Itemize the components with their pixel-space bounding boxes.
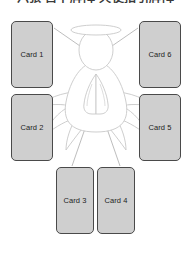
card-label: Card 1	[20, 50, 43, 59]
card-card-6[interactable]: Card 6	[139, 21, 181, 88]
card-label: Card 3	[63, 196, 86, 205]
card-label: Card 2	[20, 123, 43, 132]
spread-diagram: 六张 占卜牌阵 天使指引牌阵 Ca	[0, 0, 191, 254]
card-label: Card 4	[104, 196, 127, 205]
card-card-5[interactable]: Card 5	[139, 94, 181, 161]
card-card-4[interactable]: Card 4	[97, 167, 135, 234]
card-card-1[interactable]: Card 1	[11, 21, 53, 88]
card-label: Card 6	[148, 50, 171, 59]
angel-halo	[71, 25, 121, 35]
card-card-2[interactable]: Card 2	[11, 94, 53, 161]
card-label: Card 5	[148, 123, 171, 132]
angel-head	[79, 30, 113, 70]
card-card-3[interactable]: Card 3	[56, 167, 94, 234]
